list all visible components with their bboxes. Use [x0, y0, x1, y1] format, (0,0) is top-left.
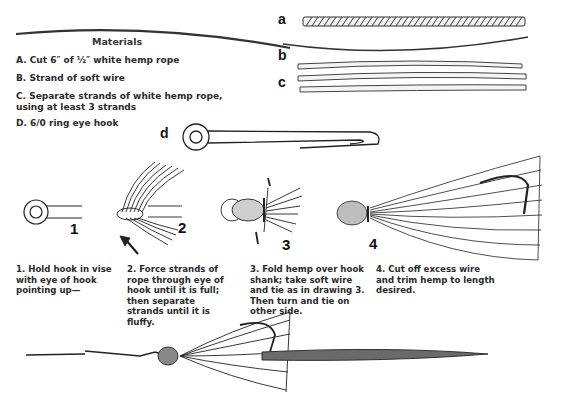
finished-lure-icon [26, 312, 488, 392]
material-letter: A. [16, 55, 27, 65]
material-letter: D. [16, 118, 27, 128]
wire-b-icon [283, 37, 528, 51]
step-caption-2: 2. Force strands of rope through eye of … [127, 264, 231, 327]
materials-title: Materials [92, 36, 142, 47]
label-d: d [160, 125, 169, 141]
strands-c-icon [298, 61, 526, 92]
step-caption-1: 1. Hold hook in vise with eye of hook po… [16, 264, 116, 296]
step-number-1: 1 [70, 220, 78, 237]
material-letter: B. [16, 73, 26, 83]
step3-tie-icon [221, 178, 302, 244]
label-a: a [278, 11, 286, 27]
material-text: Strand of soft wire [29, 73, 124, 83]
material-text: 6/0 ring eye hook [30, 118, 118, 128]
label-b: b [278, 47, 287, 63]
step-number-4: 4 [369, 235, 377, 252]
material-letter: C. [16, 91, 26, 101]
rope-a-icon [303, 17, 525, 26]
material-item-d: D. 6/0 ring eye hook [16, 118, 256, 129]
step-number-3: 3 [282, 236, 290, 253]
step2-strands-icon [117, 162, 184, 254]
material-item-b: B. Strand of soft wire [16, 73, 256, 84]
material-text: Cut 6″ of ½″ white hemp rope [30, 55, 180, 65]
label-c: c [278, 74, 286, 90]
step4-tassel-icon [337, 156, 542, 260]
material-item-c: C. Separate strands of white hemp rope, … [16, 91, 236, 113]
step-number-2: 2 [178, 219, 186, 236]
material-item-a: A. Cut 6″ of ½″ white hemp rope [16, 55, 256, 66]
material-text: Separate strands of white hemp rope, usi… [16, 91, 222, 112]
step-caption-4: 4. Cut off excess wire and trim hemp to … [376, 264, 496, 296]
step-caption-3: 3. Fold hemp over hook shank; take soft … [250, 264, 368, 317]
curved-rod-line [16, 30, 290, 48]
